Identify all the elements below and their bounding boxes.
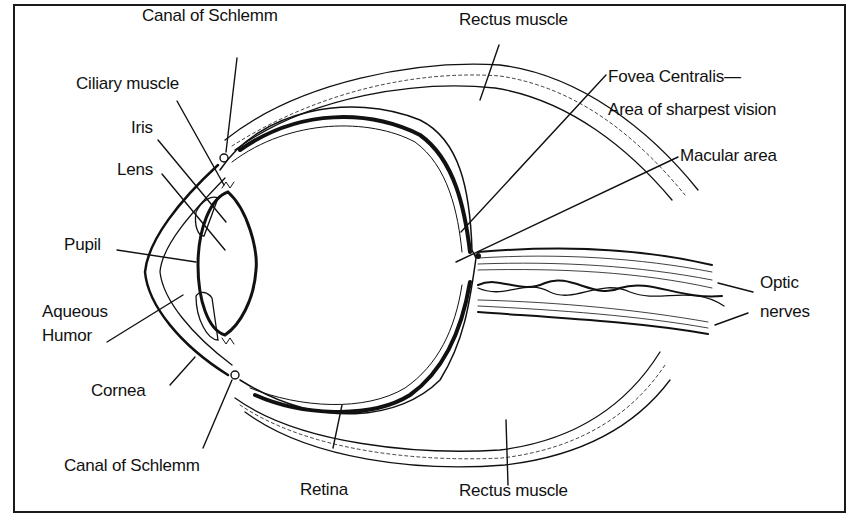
label-pupil: Pupil [64, 235, 101, 255]
label-canal-of-schlemm-bottom: Canal of Schlemm [64, 456, 200, 476]
label-ciliary-muscle: Ciliary muscle [76, 74, 179, 94]
label-iris: Iris [131, 118, 153, 138]
label-area-of-sharpest-vision: Area of sharpest vision [608, 100, 776, 120]
label-rectus-muscle-bottom: Rectus muscle [459, 481, 568, 501]
label-canal-of-schlemm-top: Canal of Schlemm [142, 6, 278, 26]
label-optic: Optic [760, 273, 799, 293]
label-nerves: nerves [760, 302, 810, 322]
cornea-shape [145, 165, 228, 375]
label-rectus-muscle-top: Rectus muscle [459, 10, 568, 30]
label-cornea: Cornea [91, 381, 146, 401]
lens-shape [198, 192, 256, 335]
label-lens: Lens [117, 160, 153, 180]
label-aqueous: Aqueous [42, 302, 108, 322]
label-humor: Humor [42, 326, 92, 346]
label-fovea-centralis: Fovea Centralis— [608, 67, 741, 87]
retina-layer [240, 117, 470, 252]
label-retina: Retina [300, 480, 348, 500]
optic-nerve [478, 248, 724, 334]
label-macular-area: Macular area [680, 146, 777, 166]
